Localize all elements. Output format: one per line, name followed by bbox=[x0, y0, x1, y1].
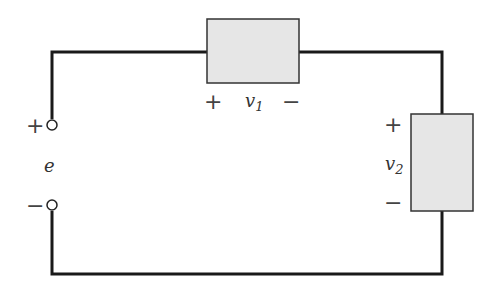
element-1-minus-sign: − bbox=[282, 89, 300, 114]
element-2-box bbox=[411, 114, 473, 211]
element-1-box bbox=[207, 19, 299, 83]
source-minus-sign: − bbox=[26, 193, 44, 218]
source-plus-sign: + bbox=[26, 113, 44, 138]
source-minus-terminal bbox=[47, 200, 57, 210]
element-1-label: v1 bbox=[245, 90, 263, 114]
element-2-plus-sign: + bbox=[384, 112, 402, 137]
element-1-plus-sign: + bbox=[204, 89, 222, 114]
wires bbox=[52, 52, 442, 274]
source-plus-terminal bbox=[47, 120, 57, 130]
source-label: e bbox=[44, 155, 55, 176]
top-left-wire bbox=[52, 52, 207, 119]
element-2-minus-sign: − bbox=[384, 190, 402, 215]
top-right-wire bbox=[299, 52, 442, 114]
element-2-label: v2 bbox=[385, 153, 403, 177]
bottom-wire bbox=[52, 211, 442, 274]
circuit-diagram: + − e + v1 − + v2 − bbox=[0, 0, 496, 293]
